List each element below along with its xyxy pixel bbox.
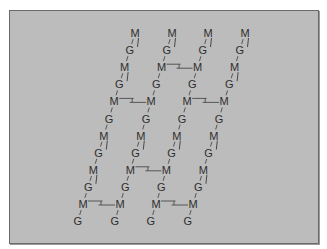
peptide-stub [175, 38, 176, 47]
peptide-stub [237, 72, 238, 81]
murnac-label: M [136, 130, 145, 142]
glcnac-label: G [163, 44, 172, 56]
murnac-label: M [126, 164, 135, 176]
glcnac-label: G [115, 78, 124, 90]
glcnac-label: G [215, 113, 224, 125]
murnac-label: M [172, 130, 181, 142]
glcnac-label: G [225, 78, 234, 90]
glcnac-label: G [105, 113, 114, 125]
glcnac-label: G [74, 215, 83, 227]
glcnac-label: G [126, 44, 135, 56]
peptide-cross-link [88, 201, 115, 205]
glcnac-label: G [194, 181, 203, 193]
murnac-label: M [151, 198, 160, 210]
peptidoglycan-diagram: MGMGMGMGMGMGMGMGMGMGMGMGMGMGMGMGMGMGMGMG… [0, 0, 327, 249]
glcnac-label: G [204, 147, 213, 159]
peptide-stub [96, 175, 97, 184]
peptide-cross-link [192, 98, 219, 102]
glcnac-label: G [184, 215, 193, 227]
murnac-label: M [162, 164, 171, 176]
glcnac-label: G [111, 215, 120, 227]
glcnac-label: G [94, 147, 103, 159]
murnac-label: M [147, 95, 156, 107]
peptide-stubs [96, 38, 249, 184]
peptide-stub [143, 141, 144, 150]
peptide-cross-link [161, 201, 188, 205]
murnac-label: M [193, 61, 202, 73]
murnac-label: M [220, 95, 229, 107]
peptide-stub [179, 141, 180, 150]
glcnac-label: G [131, 147, 140, 159]
glcnac-label: G [152, 78, 161, 90]
peptide-stub [127, 72, 128, 81]
peptide-stub [106, 141, 107, 150]
glcnac-label: G [121, 181, 130, 193]
sugar-labels: MGMGMGMGMGMGMGMGMGMGMGMGMGMGMGMGMGMGMGMG… [74, 27, 250, 227]
murnac-label: M [78, 198, 87, 210]
murnac-label: M [203, 27, 212, 39]
peptide-cross-link [135, 167, 161, 171]
glcnac-label: G [236, 44, 245, 56]
peptide-cross-link [119, 98, 146, 102]
murnac-label: M [130, 27, 139, 39]
murnac-label: M [89, 164, 98, 176]
murnac-label: M [115, 198, 124, 210]
murnac-label: M [99, 130, 108, 142]
peptide-stub [211, 38, 212, 47]
peptide-stub [248, 38, 249, 47]
glcnac-label: G [167, 147, 176, 159]
murnac-label: M [110, 95, 119, 107]
glcnac-label: G [199, 44, 208, 56]
glcnac-label: G [178, 113, 187, 125]
glcnac-label: G [142, 113, 151, 125]
murnac-label: M [157, 61, 166, 73]
murnac-label: M [209, 130, 218, 142]
peptide-stub [206, 175, 207, 184]
murnac-label: M [230, 61, 239, 73]
murnac-label: M [120, 61, 129, 73]
peptide-cross-link [167, 64, 193, 68]
peptide-stub [216, 141, 217, 150]
glcnac-label: G [147, 215, 156, 227]
glcnac-label: G [84, 181, 93, 193]
peptide-stub [138, 38, 139, 47]
murnac-label: M [183, 95, 192, 107]
glcnac-label: G [188, 78, 197, 90]
murnac-label: M [167, 27, 176, 39]
glcnac-label: G [157, 181, 166, 193]
murnac-label: M [240, 27, 249, 39]
murnac-label: M [199, 164, 208, 176]
murnac-label: M [188, 198, 197, 210]
